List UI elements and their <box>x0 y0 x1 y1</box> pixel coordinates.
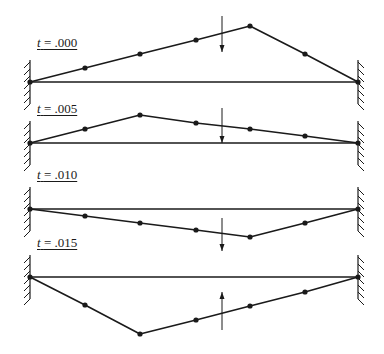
arrow-head-icon <box>220 45 225 52</box>
mass-point <box>82 65 87 70</box>
support-hatch <box>24 285 30 291</box>
mass-point <box>193 317 198 322</box>
support-hatch <box>358 231 364 237</box>
mass-point <box>247 23 252 28</box>
mass-point <box>27 206 32 211</box>
mass-point <box>27 140 32 145</box>
mass-point <box>193 120 198 125</box>
time-value: = .005 <box>44 101 77 116</box>
panel-label-0: t = .000 <box>37 36 77 49</box>
time-variable: t <box>37 101 41 116</box>
support-hatch <box>358 217 364 223</box>
support-hatch <box>358 299 364 305</box>
support-hatch <box>24 217 30 223</box>
mass-point <box>355 140 360 145</box>
string-vibration-diagram: t = .000 t = .005 t = .010 t = .015 <box>0 0 384 354</box>
support-hatch <box>24 257 30 263</box>
support-hatch <box>24 165 30 171</box>
support-hatch <box>358 196 364 202</box>
support-hatch <box>358 90 364 96</box>
support-hatch <box>358 285 364 291</box>
mass-point <box>137 331 142 336</box>
mass-point <box>355 274 360 279</box>
support-hatch <box>24 123 30 129</box>
panel-label-1: t = .005 <box>37 102 77 115</box>
mass-point <box>355 206 360 211</box>
panel-label-2: t = .010 <box>37 168 77 181</box>
support-hatch <box>358 189 364 195</box>
support-hatch <box>24 231 30 237</box>
support-hatch <box>24 151 30 157</box>
mass-point <box>247 126 252 131</box>
time-value: = .015 <box>44 235 77 250</box>
mass-point <box>137 220 142 225</box>
mass-point <box>137 51 142 56</box>
support-hatch <box>24 104 30 110</box>
support-hatch <box>358 292 364 298</box>
mass-point <box>302 220 307 225</box>
support-hatch <box>358 224 364 230</box>
displaced-string <box>30 209 358 237</box>
support-hatch <box>358 151 364 157</box>
time-variable: t <box>37 35 41 50</box>
support-hatch <box>358 123 364 129</box>
mass-point <box>302 289 307 294</box>
arrow-head-icon <box>220 292 225 299</box>
support-hatch <box>358 69 364 75</box>
support-hatch <box>24 292 30 298</box>
displaced-string <box>30 26 358 82</box>
arrow-head-icon <box>220 244 225 251</box>
mass-point <box>302 51 307 56</box>
support-hatch <box>358 257 364 263</box>
support-hatch <box>358 130 364 136</box>
support-hatch <box>358 104 364 110</box>
mass-point <box>302 133 307 138</box>
support-hatch <box>24 189 30 195</box>
mass-point <box>137 112 142 117</box>
mass-point <box>355 79 360 84</box>
support-hatch <box>358 97 364 103</box>
mass-point <box>193 37 198 42</box>
support-hatch <box>24 264 30 270</box>
time-variable: t <box>37 235 41 250</box>
support-hatch <box>358 165 364 171</box>
support-hatch <box>24 69 30 75</box>
time-value: = .010 <box>44 167 77 182</box>
support-hatch <box>358 264 364 270</box>
time-variable: t <box>37 167 41 182</box>
panel-label-3: t = .015 <box>37 236 77 249</box>
support-hatch <box>358 62 364 68</box>
mass-point <box>247 234 252 239</box>
support-hatch <box>24 130 30 136</box>
mass-point <box>82 302 87 307</box>
support-hatch <box>24 196 30 202</box>
mass-point <box>82 213 87 218</box>
mass-point <box>193 227 198 232</box>
displaced-string <box>30 115 358 143</box>
mass-point <box>82 126 87 131</box>
support-hatch <box>24 158 30 164</box>
support-hatch <box>24 97 30 103</box>
support-hatch <box>358 158 364 164</box>
mass-point <box>247 303 252 308</box>
support-hatch <box>24 90 30 96</box>
support-hatch <box>24 62 30 68</box>
support-hatch <box>24 299 30 305</box>
time-value: = .000 <box>44 35 77 50</box>
displaced-string <box>30 277 358 334</box>
arrow-head-icon <box>220 136 225 143</box>
support-hatch <box>24 224 30 230</box>
mass-point <box>27 79 32 84</box>
mass-point <box>27 274 32 279</box>
